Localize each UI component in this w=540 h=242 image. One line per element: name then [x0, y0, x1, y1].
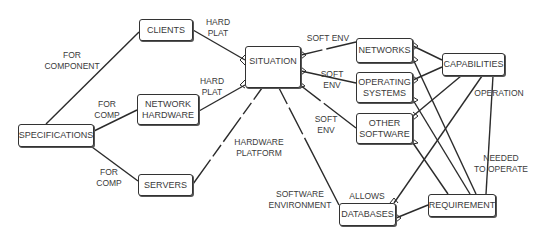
node-networks[interactable]: NETWORKS	[356, 38, 413, 63]
edge-servers-situation	[193, 88, 262, 184]
label-clients-situation: HARD PLAT	[203, 17, 233, 38]
node-requirement[interactable]: REQUIREMENT	[428, 194, 496, 217]
label-servers-situation: HARDWARE PLATFORM	[234, 137, 284, 158]
edge-situation-databases	[279, 88, 339, 205]
label-requirement-needed: NEEDED TO OPERATE	[474, 153, 528, 174]
edge-situation-networks	[301, 42, 356, 55]
edge-os-requirement	[413, 100, 470, 194]
label-situation-networks: SOFT ENV	[305, 33, 351, 44]
label-situation-databases: SOFTWARE ENVIRONMENT	[268, 189, 332, 210]
node-operating-systems[interactable]: OPERATING SYSTEMS	[356, 72, 413, 103]
label-spec-servers: FOR COMP	[94, 167, 124, 188]
label-nethw-situation: HARD PLAT	[197, 76, 227, 97]
label-situation-other: SOFT ENV	[312, 114, 340, 135]
label-situation-os: SOFT ENV	[318, 69, 346, 90]
node-databases[interactable]: DATABASES	[339, 203, 396, 226]
node-servers[interactable]: SERVERS	[138, 174, 193, 196]
label-spec-clients: FOR COMPONENT	[44, 50, 100, 71]
node-clients[interactable]: CLIENTS	[139, 19, 193, 41]
node-specifications[interactable]: SPECIFICATIONS	[18, 124, 94, 147]
edge-networks-capabilities	[413, 46, 442, 60]
edge-networks-requirement	[413, 59, 476, 194]
label-databases-capabilities: ALLOWS	[347, 191, 387, 202]
label-spec-nethw: FOR COMP	[92, 99, 122, 120]
node-capabilities[interactable]: CAPABILITIES	[442, 53, 505, 76]
node-network-hardware[interactable]: NETWORK HARDWARE	[137, 94, 199, 125]
edge-databases-requirement	[396, 205, 428, 218]
node-situation[interactable]: SITUATION	[245, 46, 301, 88]
node-other-software[interactable]: OTHER SOFTWARE	[356, 113, 413, 144]
label-capabilities-requirement: OPERATION	[474, 88, 524, 99]
